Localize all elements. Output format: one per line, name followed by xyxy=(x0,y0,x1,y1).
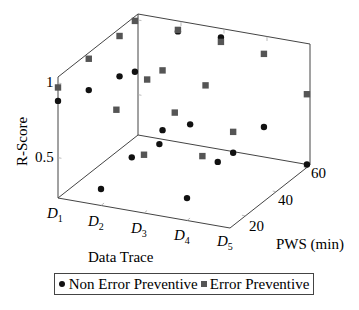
square-marker xyxy=(113,107,119,113)
circle-marker xyxy=(156,141,162,147)
circle-marker xyxy=(98,186,104,192)
legend-item-error-preventive: Error Preventive xyxy=(210,276,310,293)
data-points xyxy=(55,18,310,202)
z-tick-0.5: 0.5 xyxy=(35,149,54,166)
x-tick-d4: D4 xyxy=(174,227,190,246)
square-marker xyxy=(304,91,310,97)
circle-marker xyxy=(230,150,236,156)
x-tick-d5: D5 xyxy=(217,233,233,252)
square-marker xyxy=(230,129,236,135)
square-marker-icon xyxy=(201,281,207,287)
circle-marker xyxy=(132,68,138,74)
circle-marker xyxy=(116,73,122,79)
circle-marker xyxy=(261,124,267,130)
circle-marker xyxy=(86,87,92,93)
y-axis-label: PWS (min) xyxy=(276,236,344,253)
square-marker xyxy=(55,84,61,90)
square-marker xyxy=(144,76,150,82)
square-marker xyxy=(175,27,181,33)
square-marker xyxy=(86,56,92,62)
circle-marker-icon xyxy=(59,281,65,287)
x-axis-label: Data Trace xyxy=(88,249,153,266)
legend: Non Error Preventive Error Preventive xyxy=(54,273,314,295)
square-marker xyxy=(199,153,205,159)
square-marker xyxy=(202,82,208,88)
y-tick-60: 60 xyxy=(311,165,326,182)
axes-box xyxy=(58,14,310,228)
square-marker xyxy=(132,18,138,24)
z-axis-label: R-Score xyxy=(14,112,31,172)
square-marker xyxy=(141,152,147,158)
circle-marker xyxy=(304,161,310,167)
x-tick-d3: D3 xyxy=(131,220,147,239)
square-marker xyxy=(218,39,224,45)
square-marker xyxy=(261,51,267,57)
y-tick-20: 20 xyxy=(249,218,264,235)
circle-marker xyxy=(129,154,135,160)
square-marker xyxy=(159,67,165,73)
circle-marker xyxy=(184,195,190,201)
circle-marker xyxy=(187,121,193,127)
circle-marker xyxy=(159,127,165,133)
x-tick-d2: D2 xyxy=(88,213,104,232)
square-marker xyxy=(116,33,122,39)
square-marker xyxy=(172,109,178,115)
circle-marker xyxy=(55,98,61,104)
z-tick-1: 1 xyxy=(46,74,54,91)
legend-item-non-error-preventive: Non Error Preventive xyxy=(69,276,198,293)
scatter3d-plot xyxy=(0,0,359,310)
x-tick-d1: D1 xyxy=(47,205,63,224)
circle-marker xyxy=(215,159,221,165)
y-tick-40: 40 xyxy=(278,192,293,209)
